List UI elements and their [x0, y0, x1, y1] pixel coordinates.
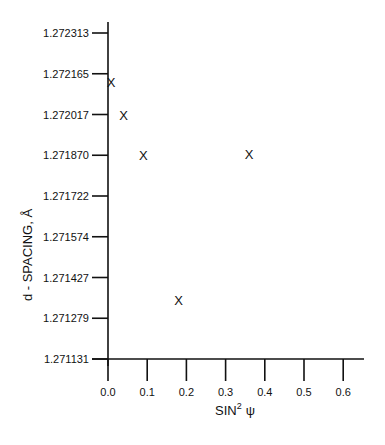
- data-point-marker: X: [139, 148, 148, 163]
- x-ticks: 0.00.10.20.30.40.50.6: [100, 359, 350, 398]
- y-tick-label: 1.271870: [43, 149, 89, 161]
- y-ticks: 1.2723131.2721651.2720171.2718701.271722…: [43, 27, 108, 365]
- y-tick-label: 1.271427: [43, 272, 89, 284]
- x-tick-label: 0.1: [140, 386, 155, 398]
- x-tick-label: 0.3: [218, 386, 233, 398]
- y-tick-label: 1.272313: [43, 27, 89, 39]
- y-tick-label: 1.272017: [43, 109, 89, 121]
- y-tick-label: 1.272165: [43, 68, 89, 80]
- scatter-chart: 1.2723131.2721651.2720171.2718701.271722…: [0, 0, 385, 445]
- data-point-marker: X: [119, 108, 128, 123]
- x-tick-label: 0.6: [336, 386, 351, 398]
- y-tick-label: 1.271722: [43, 190, 89, 202]
- data-point-marker: X: [245, 147, 254, 162]
- x-tick-label: 0.4: [257, 386, 272, 398]
- x-tick-label: 0.5: [296, 386, 311, 398]
- y-tick-label: 1.271131: [44, 353, 89, 365]
- x-axis-title: SIN2ψ: [215, 401, 255, 418]
- y-axis-title: d - SPACING, Å: [20, 209, 35, 302]
- data-points: XXXXX: [107, 75, 254, 308]
- data-point-marker: X: [174, 293, 183, 308]
- data-point-marker: X: [107, 75, 116, 90]
- x-tick-label: 0.0: [100, 386, 115, 398]
- x-tick-label: 0.2: [179, 386, 194, 398]
- y-tick-label: 1.271279: [43, 312, 89, 324]
- y-tick-label: 1.271574: [43, 231, 89, 243]
